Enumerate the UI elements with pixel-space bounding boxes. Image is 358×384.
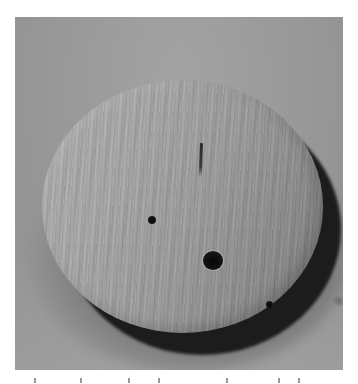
caption-glyph-fragment — [226, 378, 228, 383]
caption-glyph-fragment — [80, 378, 82, 383]
clipped-caption — [30, 378, 330, 384]
small-hole-right — [266, 301, 273, 308]
photo — [15, 17, 343, 370]
wood-knot — [332, 295, 343, 307]
caption-glyph-fragment — [158, 378, 160, 383]
radial-crack — [199, 143, 203, 177]
caption-glyph-fragment — [278, 378, 280, 383]
wooden-disc — [42, 80, 323, 333]
center-hole — [203, 251, 223, 270]
small-hole-left — [148, 216, 156, 224]
caption-glyph-fragment — [128, 378, 130, 383]
caption-glyph-fragment — [298, 378, 300, 383]
caption-glyph-fragment — [34, 378, 36, 383]
